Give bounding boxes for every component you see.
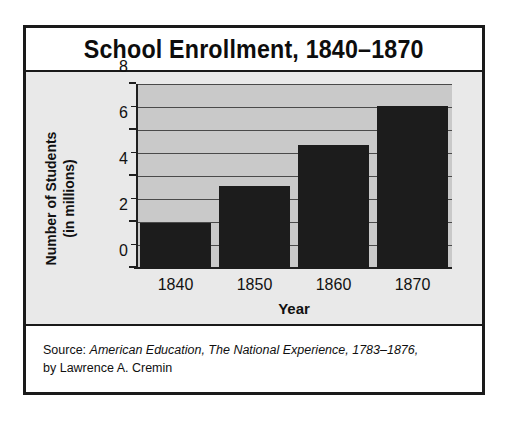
chart-title-band: School Enrollment, 1840–1870 — [26, 28, 482, 72]
source-prefix: Source: — [43, 343, 90, 357]
bar-slot — [377, 85, 448, 269]
bar-1870 — [377, 106, 448, 269]
x-axis-ticks: 1840185018601870 — [136, 276, 452, 294]
y-tick-mark — [129, 128, 136, 130]
y-tick-mark — [129, 82, 136, 84]
x-tick-label: 1850 — [219, 276, 290, 294]
bar-series — [136, 85, 452, 269]
x-tick-label: 1840 — [140, 276, 211, 294]
bar-slot — [140, 85, 211, 269]
y-tick-label: 6 — [119, 104, 128, 122]
source-band: Source: American Education, The National… — [26, 324, 482, 392]
bar-1840 — [140, 223, 211, 269]
y-tick-label: 2 — [119, 196, 128, 214]
plot-area: 02468 — [136, 85, 452, 269]
x-tick-label: 1870 — [377, 276, 448, 294]
x-axis-label: Year — [136, 300, 452, 317]
bar-1850 — [219, 186, 290, 269]
y-tick-label: 4 — [119, 150, 128, 168]
y-tick-mark — [129, 220, 136, 222]
y-tick-label: 0 — [119, 242, 128, 260]
source-book-title: American Education, The National Experie… — [90, 343, 419, 357]
bar-slot — [298, 85, 369, 269]
y-tick-label: 8 — [119, 58, 128, 76]
page-title: School Enrollment, 1840–1870 — [84, 35, 424, 64]
source-note: Source: American Education, The National… — [43, 341, 463, 377]
y-axis-label: Number of Students (in millions) — [38, 72, 84, 324]
chart-body-panel: Number of Students (in millions) 02468 1… — [26, 72, 482, 324]
y-axis-label-line2: (in millions) — [61, 131, 79, 265]
bar-slot — [219, 85, 290, 269]
x-tick-label: 1860 — [298, 276, 369, 294]
chart-figure: School Enrollment, 1840–1870 Number of S… — [23, 25, 485, 395]
y-tick-mark — [129, 174, 136, 176]
bar-1860 — [298, 145, 369, 269]
source-author: by Lawrence A. Cremin — [43, 361, 172, 375]
y-axis-label-line1: Number of Students — [44, 131, 62, 265]
